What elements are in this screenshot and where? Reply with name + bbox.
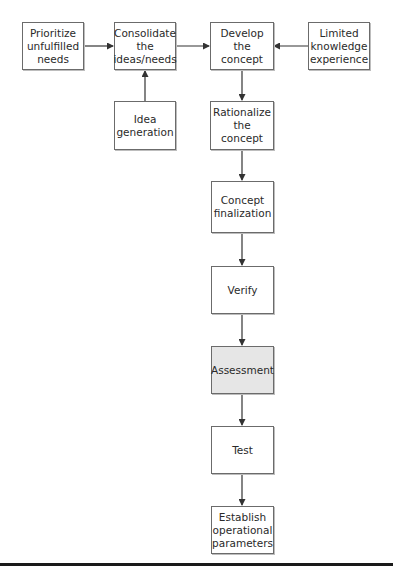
node-test: Test xyxy=(211,426,274,474)
node-label: Limited knowledge experience xyxy=(310,27,368,66)
node-label: Verify xyxy=(228,284,258,297)
node-prioritize-unfulfilled-needs: Prioritize unfulfilled needs xyxy=(22,22,84,70)
node-label: Assessment xyxy=(211,364,274,377)
node-label: Prioritize unfulfilled needs xyxy=(27,27,79,66)
node-limited-knowledge: Limited knowledge experience xyxy=(308,22,370,70)
node-concept-finalization: Concept finalization xyxy=(211,181,274,233)
connector-arrows xyxy=(0,0,393,576)
node-label: Rationalize the concept xyxy=(211,106,273,145)
node-verify: Verify xyxy=(211,266,274,314)
node-develop-concept: Develop the concept xyxy=(210,22,274,70)
node-idea-generation: Idea generation xyxy=(114,101,176,150)
node-label: Idea generation xyxy=(116,113,173,139)
bottom-divider xyxy=(0,563,393,566)
node-rationalize-concept: Rationalize the concept xyxy=(210,101,274,150)
node-label: Develop the concept xyxy=(220,27,263,66)
node-label: Test xyxy=(232,444,253,457)
node-label: Establish operational parameters xyxy=(212,511,273,550)
node-assessment: Assessment xyxy=(211,346,274,394)
node-consolidate-ideas: Consolidate the ideas/needs xyxy=(114,22,176,70)
node-label: Consolidate the ideas/needs xyxy=(113,27,176,66)
node-establish-operational-parameters: Establish operational parameters xyxy=(211,506,274,554)
node-label: Concept finalization xyxy=(214,194,272,220)
